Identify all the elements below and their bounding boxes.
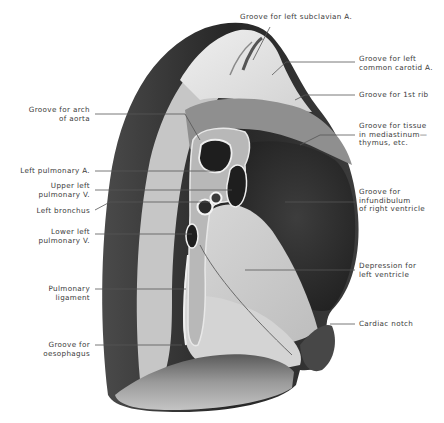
label-left-pulmonary-artery: Left pulmonary A. xyxy=(6,167,90,176)
label-cardiac-notch: Cardiac notch xyxy=(359,320,413,329)
label-groove-1st-rib: Groove for 1st rib xyxy=(359,91,429,100)
label-groove-left-subclavian: Groove for left subclavian A. xyxy=(240,13,352,22)
label-left-bronchus: Left bronchus xyxy=(6,207,90,216)
label-groove-oesophagus: Groove for oesophagus xyxy=(6,341,90,358)
label-pulmonary-ligament: Pulmonary ligament xyxy=(6,285,90,302)
label-groove-infundibulum: Groove for infundibulum of right ventric… xyxy=(359,188,425,214)
label-upper-left-pulmonary-vein: Upper left pulmonary V. xyxy=(6,182,90,199)
left-pulmonary-artery xyxy=(199,140,232,173)
label-groove-arch-aorta: Groove for arch of aorta xyxy=(6,106,90,123)
lower-left-pulmonary-vein xyxy=(186,224,198,248)
label-groove-tissue-mediastinum: Groove for tissue in mediastinum— thymus… xyxy=(359,122,427,148)
label-depression-left-ventricle: Depression for left ventricle xyxy=(359,262,416,279)
label-groove-left-common-carotid: Groove for left common carotid A. xyxy=(359,55,433,72)
upper-left-pulmonary-vein xyxy=(227,165,247,207)
left-bronchus-upper xyxy=(211,193,222,204)
label-lower-left-pulmonary-vein: Lower left pulmonary V. xyxy=(6,228,90,245)
